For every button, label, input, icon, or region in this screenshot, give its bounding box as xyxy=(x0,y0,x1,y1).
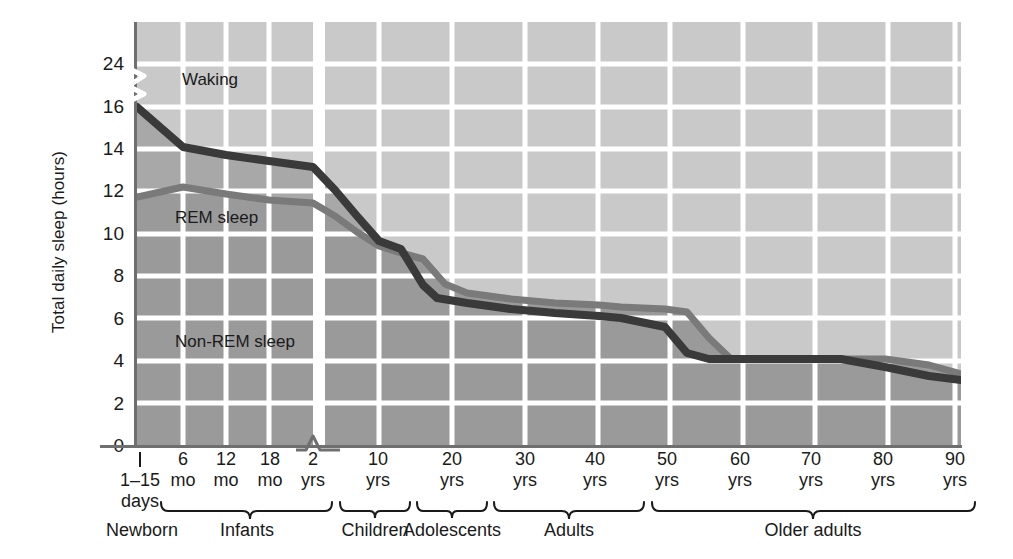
x-tick-40-yrs: 40 yrs xyxy=(558,449,632,491)
y-tick-10: 10 xyxy=(103,224,124,243)
brace-infants xyxy=(161,502,332,519)
y-tick-2: 2 xyxy=(113,394,124,413)
y-axis-tick-labels: 24 16 14 12 10 8 6 4 2 0 xyxy=(78,22,130,446)
band-label-rem-sleep: REM sleep xyxy=(175,208,258,228)
group-label-older-adults: Older adults xyxy=(753,520,873,541)
y-tick-16: 16 xyxy=(103,97,124,116)
plot-area: Waking REM sleep Non-REM sleep xyxy=(137,22,961,445)
brace-adults xyxy=(494,502,644,519)
x-axis-line xyxy=(100,445,962,448)
age-group-labels: Newborn Infants Children Adolescents Adu… xyxy=(0,520,1013,550)
y-tick-4: 4 xyxy=(113,351,124,370)
y-tick-12: 12 xyxy=(103,181,124,200)
x-tick-90-yrs: 90 yrs xyxy=(918,449,992,491)
group-label-adolescents: Adolescents xyxy=(386,520,518,541)
newborn-tick-mark xyxy=(139,452,141,467)
y-tick-6: 6 xyxy=(113,309,124,328)
sleep-chart-figure: Total daily sleep (hours) 24 16 14 12 10… xyxy=(0,0,1013,559)
y-tick-14: 14 xyxy=(103,139,124,158)
x-tick-80-yrs: 80 yrs xyxy=(846,449,920,491)
x-tick-60-yrs: 60 yrs xyxy=(703,449,777,491)
group-label-adults: Adults xyxy=(509,520,629,541)
x-tick-30-yrs: 30 yrs xyxy=(488,449,562,491)
brace-older-adults xyxy=(652,502,975,519)
brace-children xyxy=(340,502,410,518)
y-axis-break-icon xyxy=(124,64,152,104)
band-label-waking: Waking xyxy=(182,70,238,90)
plot-svg xyxy=(137,22,961,445)
x-tick-10-yrs: 10 yrs xyxy=(341,449,415,491)
x-tick-50-yrs: 50 yrs xyxy=(630,449,704,491)
x-tick-20-yrs: 20 yrs xyxy=(415,449,489,491)
y-tick-24: 24 xyxy=(103,54,124,73)
band-label-non-rem-sleep: Non-REM sleep xyxy=(175,332,295,352)
group-label-infants: Infants xyxy=(187,520,307,541)
brace-adolescents xyxy=(417,502,487,518)
y-tick-8: 8 xyxy=(113,266,124,285)
x-tick-70-yrs: 70 yrs xyxy=(774,449,848,491)
y-axis-title: Total daily sleep (hours) xyxy=(49,102,69,382)
x-tick-2-yrs: 2 yrs xyxy=(276,449,350,491)
